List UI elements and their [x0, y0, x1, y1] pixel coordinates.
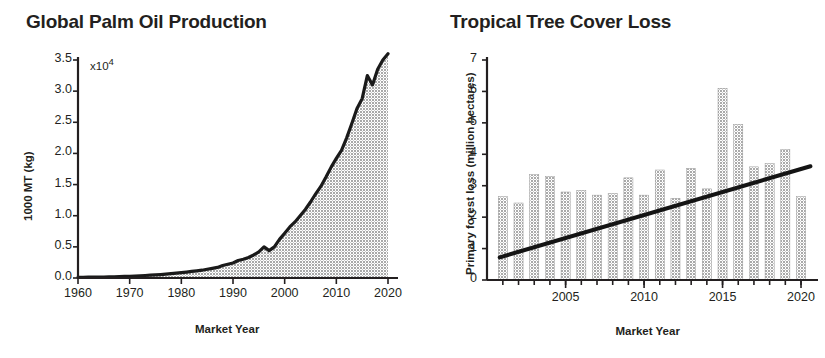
bar-2008: [608, 194, 617, 280]
y-tick-label-5: 5: [451, 114, 477, 128]
bar-2012: [671, 198, 680, 280]
bar-2014: [702, 189, 711, 280]
y-tick-label-3.0: 3.0: [28, 82, 72, 96]
bar-2019: [781, 150, 790, 280]
figure-root: Global Palm Oil Production 1000 MT (kg) …: [0, 0, 825, 358]
y-tick-label-3.5: 3.5: [28, 51, 72, 65]
plot-area-tree-cover: [420, 0, 825, 358]
x-tick-label-1970: 1970: [104, 286, 156, 300]
bar-2015: [718, 88, 727, 280]
x-tick-label-1980: 1980: [155, 286, 207, 300]
x-tick-label-2015: 2015: [697, 290, 749, 304]
y-tick-label-2: 2: [451, 208, 477, 222]
bar-2003: [530, 175, 539, 280]
x-tick-label-2000: 2000: [259, 286, 311, 300]
x-tick-label-2020: 2020: [362, 286, 414, 300]
x-tick-label-2010: 2010: [310, 286, 362, 300]
bar-2004: [545, 176, 554, 280]
y-tick-label-0.5: 0.5: [28, 238, 72, 252]
y-tick-label-4: 4: [451, 145, 477, 159]
y-tick-label-2.5: 2.5: [28, 113, 72, 127]
bar-2013: [687, 168, 696, 280]
bar-2009: [624, 178, 633, 280]
y-tick-label-6: 6: [451, 82, 477, 96]
y-tick-label-7: 7: [451, 51, 477, 65]
y-tick-label-0.0: 0.0: [28, 269, 72, 283]
y-tick-label-1.0: 1.0: [28, 207, 72, 221]
x-tick-label-1990: 1990: [207, 286, 259, 300]
area-fill-palm-oil: [78, 54, 388, 278]
chart-panel-tree-cover: Tropical Tree Cover Loss Primary forest …: [420, 0, 825, 358]
bar-2001: [498, 197, 507, 280]
x-tick-label-2010: 2010: [618, 290, 670, 304]
x-tick-label-2020: 2020: [775, 290, 825, 304]
y-tick-label-3: 3: [451, 177, 477, 191]
chart-panel-palm-oil: Global Palm Oil Production 1000 MT (kg) …: [0, 0, 420, 358]
bar-2010: [640, 195, 649, 280]
bar-2007: [592, 195, 601, 280]
y-tick-label-0: 0: [451, 271, 477, 285]
bar-2002: [514, 203, 523, 280]
x-tick-label-2005: 2005: [540, 290, 592, 304]
y-tick-label-1: 1: [451, 240, 477, 254]
bar-2020: [796, 197, 805, 280]
bar-2011: [655, 170, 664, 280]
y-tick-label-2.0: 2.0: [28, 144, 72, 158]
y-tick-label-1.5: 1.5: [28, 176, 72, 190]
x-tick-label-1960: 1960: [52, 286, 104, 300]
bar-2016: [734, 124, 743, 280]
